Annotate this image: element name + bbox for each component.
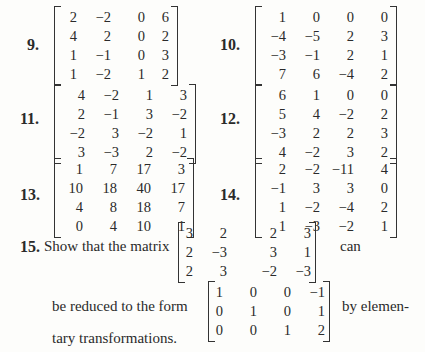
matrix-cell: 3: [227, 243, 277, 262]
matrix-cell: 2: [145, 27, 169, 46]
matrix-cell: −1: [291, 283, 325, 302]
matrix-cell: 6: [145, 8, 169, 27]
matrix: 4−2132−13−2−23−213−32−2: [54, 84, 196, 164]
matrix: 32232−33123−2−3: [178, 222, 316, 283]
problem-text: be reduced to the form: [52, 298, 188, 315]
matrix-cell: 0: [320, 8, 354, 27]
matrix-cell: 10: [63, 179, 83, 198]
matrix-cell: 2: [63, 105, 85, 124]
matrix-cell: 0: [320, 86, 354, 105]
matrix-cell: −2: [153, 105, 187, 124]
matrix-cell: 6: [286, 65, 320, 84]
matrix-cell: 7: [83, 160, 117, 179]
matrix-cell: 17: [151, 179, 185, 198]
matrix-cell: −3: [264, 124, 286, 143]
matrix-cell: 3: [354, 124, 388, 143]
matrix-cell: 4: [354, 160, 388, 179]
matrix-cell: −2: [119, 124, 153, 143]
matrix-cell: 3: [119, 105, 153, 124]
matrix-cell: 2: [183, 262, 193, 281]
matrix-cell: 0: [223, 321, 257, 340]
matrix-cell: 2: [63, 8, 77, 27]
matrix-cell: 4: [83, 217, 117, 236]
matrix-cell: 2: [320, 46, 354, 65]
matrix-cell: 1: [223, 302, 257, 321]
matrix-cell: 3: [85, 124, 119, 143]
matrix-cell: −1: [77, 46, 111, 65]
matrix-cell: 1: [63, 160, 83, 179]
matrix-cell: 2: [193, 224, 227, 243]
matrix-cell: 0: [354, 86, 388, 105]
problem-number: 13.: [20, 186, 40, 204]
matrix-cell: −2: [85, 86, 119, 105]
matrix-cell: −4: [320, 198, 354, 217]
matrix-cell: 3: [354, 27, 388, 46]
matrix-cell: 7: [264, 65, 286, 84]
problem-number: 12.: [220, 110, 240, 128]
matrix-cell: 1: [277, 243, 311, 262]
matrix-cell: 6: [264, 86, 286, 105]
matrix-cell: −2: [77, 65, 111, 84]
problem-text: Show that the matrix: [44, 238, 169, 255]
matrix-cell: 2: [145, 65, 169, 84]
matrix-cell: −3: [277, 262, 311, 281]
matrix-cell: −5: [286, 27, 320, 46]
matrix-cell: −2: [63, 124, 85, 143]
matrix-cell: 0: [111, 27, 145, 46]
problem-text: by elemen-: [342, 298, 409, 315]
matrix-cell: −11: [320, 160, 354, 179]
matrix-cell: 2: [320, 124, 354, 143]
matrix-cell: 3: [277, 224, 311, 243]
matrix-cell: 2: [77, 27, 111, 46]
matrix-cell: 0: [111, 46, 145, 65]
matrix-cell: 1: [213, 283, 223, 302]
problem-text: can: [340, 238, 361, 255]
matrix: 610054−22−32234−232: [255, 84, 397, 164]
matrix-cell: 2: [264, 160, 286, 179]
problem-number: 10.: [220, 36, 240, 54]
matrix-cell: 4: [286, 105, 320, 124]
matrix-cell: −2: [227, 262, 277, 281]
matrix-cell: 2: [320, 27, 354, 46]
matrix-cell: 1: [264, 198, 286, 217]
matrix-cell: 0: [63, 217, 83, 236]
matrix-cell: 3: [151, 160, 185, 179]
matrix-cell: 0: [354, 8, 388, 27]
matrix-cell: 2: [286, 124, 320, 143]
matrix-cell: 10: [117, 217, 151, 236]
matrix-cell: 0: [223, 283, 257, 302]
matrix-cell: 1: [264, 8, 286, 27]
matrix-cell: −3: [193, 243, 227, 262]
matrix-cell: 3: [193, 262, 227, 281]
target-matrix: 100−101010012: [208, 281, 330, 342]
problem-number: 15.: [20, 238, 40, 256]
matrix-cell: 18: [117, 198, 151, 217]
matrix-cell: 4: [63, 27, 77, 46]
matrix-cell: 2: [183, 243, 193, 262]
matrix-cell: 2: [291, 321, 325, 340]
matrix-cell: 2: [354, 105, 388, 124]
matrix-cell: 40: [117, 179, 151, 198]
matrix-cell: −2: [286, 198, 320, 217]
matrix-cell: 3: [320, 179, 354, 198]
matrix-cell: 5: [264, 105, 286, 124]
matrix-cell: −4: [320, 65, 354, 84]
matrix-cell: 0: [111, 8, 145, 27]
matrix-cell: 3: [145, 46, 169, 65]
matrix-cell: 8: [83, 198, 117, 217]
matrix-cell: 3: [286, 179, 320, 198]
matrix-cell: 1: [153, 124, 187, 143]
matrix: 1000−4−523−3−12176−42: [255, 6, 397, 86]
problem-number: 11.: [20, 110, 39, 128]
matrix-cell: 1: [63, 65, 77, 84]
matrix-cell: 0: [257, 283, 291, 302]
matrix-cell: 4: [63, 198, 83, 217]
matrix-cell: 0: [257, 302, 291, 321]
matrix-cell: 1: [286, 86, 320, 105]
matrix-cell: 0: [213, 321, 223, 340]
matrix-cell: 0: [213, 302, 223, 321]
matrix: 17173101840174818704101: [54, 158, 194, 238]
matrix-cell: 1: [354, 217, 388, 236]
problem-number: 9.: [27, 36, 39, 54]
matrix-cell: 2: [354, 65, 388, 84]
